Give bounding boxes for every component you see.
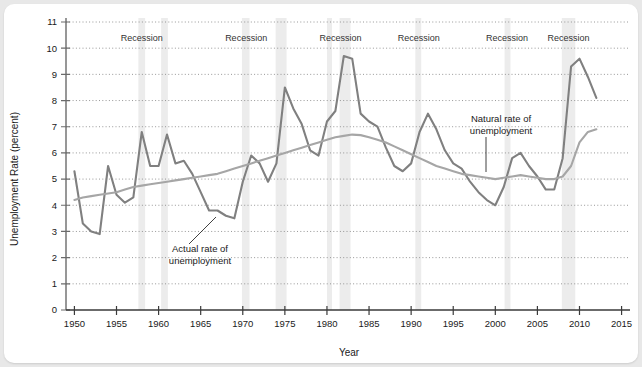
recession-label: Recession bbox=[398, 33, 440, 43]
x-tick-label: 1990 bbox=[401, 318, 422, 329]
recession-band bbox=[327, 18, 332, 310]
x-axis: 1950195519601965197019751980198519901995… bbox=[64, 306, 632, 329]
y-tick-label: 6 bbox=[52, 147, 57, 158]
x-tick-label: 1995 bbox=[443, 318, 464, 329]
y-tick-label: 8 bbox=[52, 95, 57, 106]
y-tick-label: 2 bbox=[52, 252, 57, 263]
y-tick-label: 9 bbox=[52, 69, 57, 80]
y-axis: 01234567891011 bbox=[46, 16, 70, 315]
y-tick-label: 0 bbox=[52, 304, 57, 315]
recession-band bbox=[415, 18, 421, 310]
x-tick-label: 1955 bbox=[106, 318, 127, 329]
x-tick-label: 2005 bbox=[527, 318, 548, 329]
annotation-label: unemployment bbox=[470, 125, 533, 136]
annotation-label: Natural rate of bbox=[471, 113, 532, 124]
annotation-leader-line bbox=[189, 217, 216, 244]
y-tick-label: 3 bbox=[52, 226, 57, 237]
recession-label: Recession bbox=[121, 33, 163, 43]
recession-band bbox=[138, 18, 145, 310]
y-tick-label: 11 bbox=[47, 16, 57, 27]
x-tick-label: 2015 bbox=[611, 318, 632, 329]
annotation-label: unemployment bbox=[169, 255, 232, 266]
recession-label: Recession bbox=[548, 33, 590, 43]
x-tick-label: 1985 bbox=[358, 318, 379, 329]
x-tick-label: 1965 bbox=[190, 318, 211, 329]
recession-label: Recession bbox=[486, 33, 528, 43]
y-tick-label: 1 bbox=[52, 278, 57, 289]
x-tick-label: 1950 bbox=[64, 318, 85, 329]
x-tick-label: 1975 bbox=[274, 318, 295, 329]
y-tick-label: 10 bbox=[46, 43, 57, 54]
series-line bbox=[74, 56, 596, 234]
x-tick-label: 2000 bbox=[485, 318, 506, 329]
data-series bbox=[74, 56, 596, 234]
recession-band bbox=[161, 18, 168, 310]
x-tick-label: 2010 bbox=[569, 318, 590, 329]
recession-label: Recession bbox=[225, 33, 267, 43]
x-tick-label: 1960 bbox=[148, 318, 169, 329]
unemployment-chart: 01234567891011 1950195519601965197019751… bbox=[4, 4, 638, 363]
recession-label: Recession bbox=[319, 33, 361, 43]
x-tick-label: 1970 bbox=[232, 318, 253, 329]
y-tick-label: 7 bbox=[52, 121, 57, 132]
y-tick-label: 5 bbox=[52, 173, 57, 184]
series-line bbox=[74, 129, 596, 200]
y-tick-label: 4 bbox=[52, 200, 57, 211]
y-axis-title: Unemployment Rate (percent) bbox=[9, 112, 20, 246]
annotation-group: Actual rate ofunemploymentNatural rate o… bbox=[169, 113, 533, 266]
x-tick-label: 1980 bbox=[316, 318, 337, 329]
chart-card: 01234567891011 1950195519601965197019751… bbox=[4, 4, 638, 363]
recession-label-group: RecessionRecessionRecessionRecessionRece… bbox=[121, 33, 590, 43]
recession-band bbox=[562, 18, 575, 310]
recession-band bbox=[340, 18, 351, 310]
annotation-label: Actual rate of bbox=[172, 243, 228, 254]
x-axis-title: Year bbox=[339, 347, 360, 358]
